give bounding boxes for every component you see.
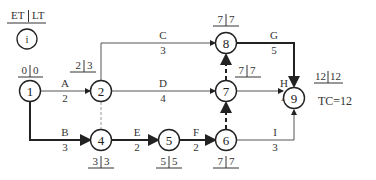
node-4-times: 3 3 (88, 155, 114, 168)
legend-et: ET (11, 9, 25, 21)
activity-i-name: I (273, 126, 277, 138)
svg-text:3: 3 (87, 59, 93, 71)
activity-h-name: H (280, 77, 288, 89)
activity-d-duration: 4 (160, 92, 166, 104)
network-diagram: ET LT i A 2 B 3 C (0, 0, 376, 180)
activity-e-name: E (134, 126, 141, 138)
activity-b-arrow (30, 101, 90, 140)
svg-text:0: 0 (22, 64, 28, 76)
svg-text:9: 9 (291, 91, 298, 106)
svg-text:5: 5 (161, 155, 167, 167)
svg-text:8: 8 (223, 36, 230, 51)
svg-text:1: 1 (27, 84, 34, 99)
svg-text:0: 0 (33, 64, 39, 76)
svg-text:7: 7 (250, 64, 256, 76)
activity-b-duration: 3 (62, 141, 68, 153)
node-2-times: 2 3 (70, 59, 96, 72)
legend-lt: LT (32, 9, 45, 21)
legend: ET LT i (7, 9, 46, 49)
node-1-times: 0 0 (18, 64, 43, 77)
node-7: 7 (216, 81, 237, 102)
node-5-times: 5 5 (156, 155, 182, 168)
activity-f-name: F (193, 126, 199, 138)
svg-text:2: 2 (98, 84, 105, 99)
node-6: 6 (216, 130, 237, 151)
svg-text:4: 4 (98, 133, 105, 148)
activity-d-name: D (159, 77, 167, 89)
node-9-times: 12 12 (314, 70, 343, 83)
node-9: 9 (284, 88, 305, 109)
svg-text:7: 7 (239, 64, 245, 76)
activity-c-duration: 3 (160, 44, 166, 56)
activity-a-name: A (61, 77, 69, 89)
node-6-times: 7 7 (213, 155, 239, 168)
svg-text:5: 5 (166, 133, 173, 148)
svg-text:6: 6 (223, 133, 230, 148)
node-4: 4 (91, 130, 112, 151)
activity-c-arrow (101, 43, 215, 81)
activity-i-duration: 3 (272, 141, 278, 153)
total-completion-label: TC=12 (318, 94, 352, 108)
node-8: 8 (216, 33, 237, 54)
activity-c-name: C (159, 29, 166, 41)
svg-text:12: 12 (330, 70, 341, 82)
activity-i-arrow (237, 110, 294, 140)
activity-g-name: G (270, 29, 278, 41)
activity-b-name: B (61, 126, 68, 138)
activity-g-duration: 5 (271, 44, 277, 56)
svg-text:7: 7 (218, 155, 224, 167)
node-8-times: 7 7 (213, 13, 239, 26)
svg-text:2: 2 (76, 59, 82, 71)
node-7-times: 7 7 (235, 64, 261, 77)
svg-text:12: 12 (315, 70, 326, 82)
svg-text:3: 3 (104, 155, 110, 167)
legend-node-symbol: i (25, 33, 28, 45)
node-5: 5 (159, 130, 180, 151)
svg-text:7: 7 (229, 155, 235, 167)
node-2: 2 (91, 81, 112, 102)
svg-text:5: 5 (172, 155, 178, 167)
svg-text:7: 7 (229, 13, 235, 25)
activity-e-duration: 2 (134, 141, 140, 153)
activity-f-duration: 2 (193, 141, 199, 153)
activity-a-duration: 2 (62, 92, 68, 104)
svg-text:3: 3 (93, 155, 99, 167)
node-1: 1 (20, 81, 41, 102)
svg-text:7: 7 (218, 13, 224, 25)
svg-text:7: 7 (223, 84, 230, 99)
